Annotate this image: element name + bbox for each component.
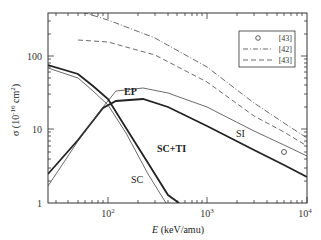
- label-si: SI: [236, 128, 245, 139]
- x-tick-100: 102: [101, 207, 115, 219]
- x-axis-title: E (keV/amu): [151, 224, 204, 236]
- legend-label-2: [42]: [279, 45, 293, 54]
- curve-si: [48, 88, 307, 186]
- legend-label-1: [43]: [279, 34, 293, 43]
- legend-label-3: [43]: [279, 56, 293, 65]
- label-ep: EP: [124, 86, 137, 97]
- label-sc-ti: SC+TI: [157, 143, 186, 154]
- curve-sc: [48, 68, 166, 203]
- y-axis-title: σ (10-16 cm2): [9, 84, 22, 136]
- curve-sc-ti: [48, 65, 179, 203]
- label-sc: SC: [131, 174, 144, 185]
- cross-section-chart: 1 10 100 102 103 104 E (keV/amu) σ (10-1…: [0, 0, 321, 240]
- y-tick-10: 10: [32, 124, 42, 135]
- y-tick-1: 1: [37, 198, 42, 209]
- data-point-ref43: [282, 150, 287, 155]
- y-tick-100: 100: [27, 51, 42, 62]
- legend: [43] [42] [43]: [239, 31, 295, 67]
- x-tick-1000: 103: [200, 207, 214, 219]
- x-tick-10000: 104: [298, 207, 312, 219]
